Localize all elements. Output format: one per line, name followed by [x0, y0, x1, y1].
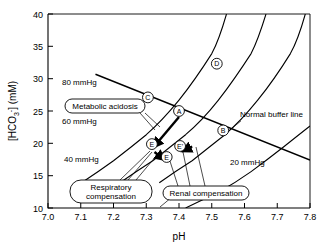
- y-tick-20: 20: [33, 139, 43, 149]
- isobar-label-60mmhg: 60 mmHg: [62, 117, 97, 126]
- x-tick-7-1: 7.1: [74, 212, 87, 222]
- x-tick-7-6: 7.6: [238, 212, 251, 222]
- point-marker-a: A: [174, 106, 185, 117]
- point-e3-label: E': [177, 143, 183, 150]
- y-tick-35: 35: [33, 42, 43, 52]
- x-tick-7-0: 7.0: [42, 212, 55, 222]
- renal-callout-text: Renal compensation: [170, 189, 243, 198]
- x-tick-7-8: 7.8: [304, 212, 317, 222]
- acid-base-chart-svg: 10 15 20 25 30 35 40 7.0 7.1 7.2 7.3 7.4: [0, 0, 331, 251]
- normal-buffer-line-label: Normal buffer line: [240, 110, 304, 119]
- y-axis-title-suffix: ] (mM): [7, 81, 18, 110]
- x-axis-tick-labels: 7.0 7.1 7.2 7.3 7.4 7.5 7.6 7.7 7.8: [42, 212, 317, 222]
- isobar-label-40mmhg: 40 mmHg: [64, 155, 99, 164]
- y-tick-40: 40: [33, 10, 43, 20]
- respiratory-callout-line-1: Respiratory: [91, 183, 132, 192]
- point-e1-label: E: [150, 141, 155, 148]
- point-c-label: C: [145, 94, 150, 101]
- point-marker-c: C: [143, 92, 154, 103]
- metabolic-acidosis-callout-text: Metabolic acidosis: [72, 102, 137, 111]
- point-marker-e3: E': [175, 141, 186, 152]
- x-tick-7-7: 7.7: [271, 212, 284, 222]
- isobar-label-20mmhg: 20 mmHg: [230, 158, 265, 167]
- isobar-label-80mmhg: 80 mmHg: [62, 78, 97, 87]
- y-axis-title-prefix: [HCO: [7, 116, 18, 141]
- point-marker-d: D: [211, 58, 222, 69]
- x-tick-7-5: 7.5: [205, 212, 218, 222]
- point-e2-label: E: [164, 154, 169, 161]
- x-tick-7-4: 7.4: [173, 212, 186, 222]
- y-tick-25: 25: [33, 107, 43, 117]
- point-d-label: D: [214, 60, 219, 67]
- point-marker-e2: E: [161, 152, 172, 163]
- davenport-diagram-figure: 10 15 20 25 30 35 40 7.0 7.1 7.2 7.3 7.4: [0, 0, 331, 251]
- y-tick-15: 15: [33, 171, 43, 181]
- point-b-label: B: [221, 127, 226, 134]
- x-axis-title: pH: [173, 231, 186, 242]
- respiratory-callout-line-2: compensation: [86, 192, 136, 201]
- x-tick-7-3: 7.3: [140, 212, 153, 222]
- point-marker-e1: E: [147, 139, 158, 150]
- y-tick-30: 30: [33, 74, 43, 84]
- point-a-label: A: [177, 108, 182, 115]
- x-tick-7-2: 7.2: [107, 212, 120, 222]
- point-marker-b: B: [218, 125, 229, 136]
